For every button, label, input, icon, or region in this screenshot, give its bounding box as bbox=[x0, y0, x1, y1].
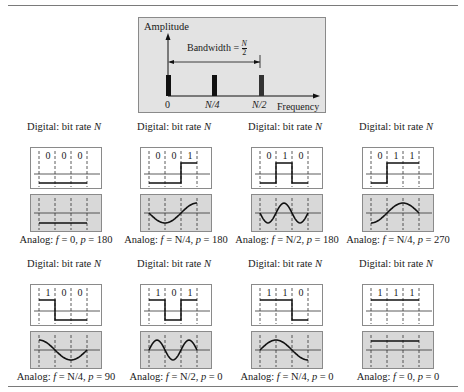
tick-n2: N/2 bbox=[252, 99, 266, 110]
frequency-label: Frequency bbox=[277, 101, 319, 112]
bit-label: 1 bbox=[389, 287, 403, 298]
digital-signal-box: 100 bbox=[30, 284, 102, 326]
bit-label: 1 bbox=[262, 287, 276, 298]
digital-signal-box: 110 bbox=[251, 284, 323, 326]
analog-waveform bbox=[141, 195, 213, 233]
bit-label: 1 bbox=[389, 150, 403, 161]
analog-waveform bbox=[31, 195, 103, 233]
analog-waveform bbox=[141, 332, 213, 370]
digital-signal-box: 011 bbox=[362, 147, 434, 189]
bit-label: 1 bbox=[373, 287, 387, 298]
panel-title: Digital: bit rate N bbox=[118, 258, 230, 269]
analog-waveform bbox=[31, 332, 103, 370]
bit-label: 1 bbox=[405, 287, 419, 298]
bit-label: 0 bbox=[73, 287, 87, 298]
digital-signal-box: 010 bbox=[251, 147, 323, 189]
bit-label: 0 bbox=[151, 150, 165, 161]
bit-label: 0 bbox=[294, 287, 308, 298]
top-rule bbox=[8, 5, 458, 6]
analog-signal-box bbox=[362, 194, 434, 232]
bit-label: 1 bbox=[405, 150, 419, 161]
bit-label: 0 bbox=[41, 150, 55, 161]
analog-signal-box bbox=[140, 331, 212, 369]
spectrum-diagram: Amplitude Bandwidth = N 2 0 N/4 N/2 Freq… bbox=[138, 17, 326, 113]
analog-signal-box bbox=[30, 194, 102, 232]
bit-label: 0 bbox=[57, 150, 71, 161]
tick-n4: N/4 bbox=[205, 99, 219, 110]
panel-title: Digital: bit rate N bbox=[340, 258, 452, 269]
analog-signal-box bbox=[251, 194, 323, 232]
panel-title: Digital: bit rate N bbox=[229, 121, 341, 132]
panel-title: Digital: bit rate N bbox=[8, 121, 120, 132]
digital-signal-box: 111 bbox=[362, 284, 434, 326]
bit-label: 0 bbox=[294, 150, 308, 161]
panel-title: Digital: bit rate N bbox=[8, 258, 120, 269]
amplitude-label: Amplitude bbox=[144, 21, 189, 32]
analog-signal-box bbox=[30, 331, 102, 369]
analog-signal-box bbox=[251, 331, 323, 369]
tick-0: 0 bbox=[165, 99, 170, 110]
digital-signal-box: 001 bbox=[140, 147, 212, 189]
panel-title: Digital: bit rate N bbox=[229, 258, 341, 269]
panel-title: Digital: bit rate N bbox=[118, 121, 230, 132]
bit-label: 1 bbox=[183, 287, 197, 298]
bit-label: 0 bbox=[262, 150, 276, 161]
analog-waveform bbox=[363, 332, 435, 370]
analog-waveform bbox=[363, 195, 435, 233]
bit-label: 0 bbox=[73, 150, 87, 161]
bandwidth-label: Bandwidth = N 2 bbox=[187, 40, 247, 57]
bit-label: 0 bbox=[167, 287, 181, 298]
analog-caption: Analog: f = N/4, p = 270 bbox=[328, 234, 464, 245]
digital-signal-box: 000 bbox=[30, 147, 102, 189]
bit-label: 0 bbox=[167, 150, 181, 161]
bit-label: 1 bbox=[183, 150, 197, 161]
bit-label: 1 bbox=[278, 287, 292, 298]
bit-label: 0 bbox=[57, 287, 71, 298]
analog-signal-box bbox=[362, 331, 434, 369]
bit-label: 0 bbox=[373, 150, 387, 161]
analog-waveform bbox=[252, 332, 324, 370]
bit-label: 1 bbox=[41, 287, 55, 298]
bottom-rule bbox=[8, 386, 458, 387]
digital-signal-box: 101 bbox=[140, 284, 212, 326]
analog-signal-box bbox=[140, 194, 212, 232]
bit-label: 1 bbox=[278, 150, 292, 161]
analog-caption: Analog: f = 0, p = 0 bbox=[328, 371, 464, 382]
panel-title: Digital: bit rate N bbox=[340, 121, 452, 132]
analog-waveform bbox=[252, 195, 324, 233]
bit-label: 1 bbox=[151, 287, 165, 298]
bandwidth-denominator: 2 bbox=[242, 49, 247, 57]
